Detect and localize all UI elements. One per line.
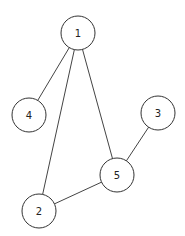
- edges-layer: [29, 33, 158, 211]
- node-label: 4: [26, 110, 32, 121]
- node-label: 5: [114, 170, 120, 181]
- node-3: 3: [141, 96, 175, 130]
- nodes-layer: 1 4 3 5 2: [12, 16, 175, 228]
- node-label: 3: [155, 108, 161, 119]
- node-2: 2: [22, 194, 56, 228]
- node-1: 1: [61, 16, 95, 50]
- graph-diagram: 1 4 3 5 2: [0, 0, 185, 236]
- node-label: 1: [75, 28, 81, 39]
- edge-1-5: [78, 33, 117, 175]
- node-4: 4: [12, 98, 46, 132]
- node-label: 2: [36, 206, 42, 217]
- node-5: 5: [100, 158, 134, 192]
